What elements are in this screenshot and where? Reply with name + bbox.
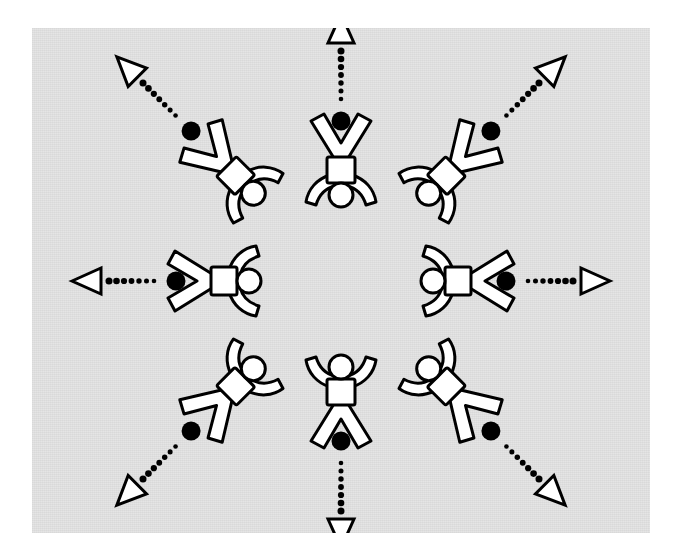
arrow-sw [108,444,178,514]
arrow-trail-dot [526,279,531,284]
arrow-trail-dot [168,108,173,113]
arrow-trail-dot [156,96,162,102]
arrow-s [328,461,354,533]
arrow-trail-dot [338,72,344,78]
arrow-trail-dot [121,278,127,284]
arrow-trail-dot [555,278,561,284]
arrow-trail-dot [530,470,537,477]
dot-sw [182,421,201,440]
arrow-trail-dot [525,465,531,471]
arrow-trail-dot [151,465,157,471]
dot-se [481,421,500,440]
arrow-nw [108,48,178,118]
arrow-trail-dot [139,475,146,482]
arrow-trail-dot [173,113,178,118]
arrow-head-icon [328,519,354,533]
arrow-trail-dot [533,278,538,283]
arrow-trail-dot [504,444,509,449]
arrow-w [72,268,156,294]
arrow-ne [504,48,574,118]
arrow-trail-dot [338,88,343,93]
arrow-trail-dot [509,108,514,113]
dot-e [497,272,516,291]
arrow-trail-dot [162,102,167,107]
arrow-head-icon [328,28,354,43]
arrow-trail-dot [562,278,569,285]
arrow-trail-dot [339,97,344,102]
arrow-trail-dot [338,80,343,85]
arrow-trail-dot [530,85,537,92]
figure-canvas [0,0,680,557]
arrow-trail-dot [162,455,167,460]
arrow-trail-dot [520,96,526,102]
arrow-trail-dot [156,460,162,466]
arrow-trail-dot [113,278,120,285]
arrow-trail-dot [338,492,344,498]
arrow-trail-dot [129,278,135,284]
arrow-trail-dot [339,461,344,466]
arrow-head-icon [72,268,101,294]
arrow-e [526,268,610,294]
arrow-trail-dot [145,470,152,477]
arrow-se [504,444,574,514]
arrow-trail-dot [338,476,343,481]
arrow-trail-dot [569,277,576,284]
arrow-trail-dot [504,113,509,118]
dot-w [167,272,186,291]
arrow-trail-dot [337,47,344,54]
arrow-head-icon [581,268,610,294]
arrow-trail-dot [525,91,531,97]
arrow-trail-dot [535,79,542,86]
arrow-trail-dot [509,449,514,454]
arrow-trail-dot [139,79,146,86]
arrow-trail-dot [337,507,344,514]
arrow-trail-dot [548,278,554,284]
arrow-trail-dot [535,475,542,482]
radial-figure-diagram [32,28,650,533]
arrow-trail-dot [338,500,345,507]
arrow-trail-dot [338,64,344,70]
arrow-trail-dot [520,460,526,466]
arrow-trail-dot [105,277,112,284]
dot-s [332,432,351,451]
arrow-trail-dot [145,85,152,92]
arrow-layer [72,28,610,533]
arrow-trail-dot [151,91,157,97]
arrow-trail-dot [144,278,149,283]
arrow-trail-dot [152,279,157,284]
arrow-trail-dot [338,484,344,490]
arrow-trail-dot [168,449,173,454]
dot-n [332,112,351,131]
arrow-trail-dot [338,56,345,63]
dot-nw [182,122,201,141]
arrow-trail-dot [515,102,520,107]
figure-panel [32,28,650,533]
arrow-trail-dot [338,468,343,473]
person-layer [168,111,514,450]
arrow-trail-dot [136,278,141,283]
arrow-trail-dot [540,278,545,283]
dot-ne [481,122,500,141]
arrow-n [328,28,354,101]
arrow-trail-dot [173,444,178,449]
arrow-trail-dot [515,455,520,460]
